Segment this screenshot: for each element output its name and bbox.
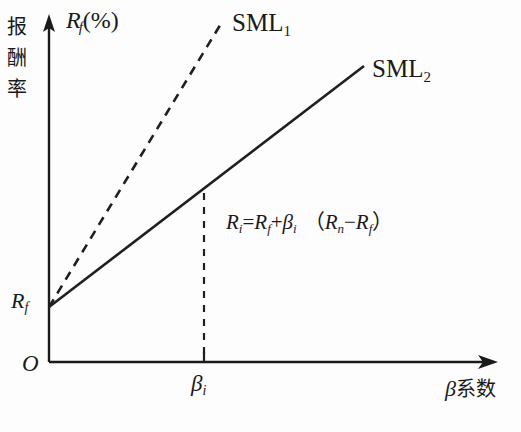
formula-beta-sub: i	[293, 221, 297, 236]
formula-ri: R	[226, 210, 239, 234]
x-axis	[49, 355, 498, 369]
y-axis-title-char-2: 酬	[2, 43, 32, 74]
formula-plus: +	[271, 210, 283, 234]
sml1-label-text: SML	[232, 9, 283, 36]
formula-minus: −	[344, 210, 356, 234]
y-axis-label: Rf(%)	[66, 8, 119, 35]
sml2-label: SML2	[372, 56, 431, 85]
origin-label: O	[22, 352, 39, 375]
formula-rn: R	[325, 210, 338, 234]
sml2-label-text: SML	[372, 55, 423, 82]
formula-rf2: R	[356, 210, 369, 234]
sml1-line	[49, 22, 222, 307]
y-axis	[43, 14, 55, 362]
capm-formula: Ri=Rf+βi（Rn−Rf）	[226, 212, 393, 235]
formula-equals: =	[242, 210, 254, 234]
x-tick-symbol: β	[191, 371, 202, 396]
y-intercept-symbol: R	[11, 288, 24, 313]
formula-rf1: R	[254, 210, 267, 234]
y-axis-title-char-1: 报	[2, 12, 32, 43]
formula-open-paren: （	[304, 210, 325, 234]
y-axis-title-cn: 报 酬 率	[2, 12, 32, 105]
y-axis-title-char-3: 率	[2, 74, 32, 105]
y-intercept-subscript: f	[24, 300, 28, 315]
x-axis-title: β系数	[445, 378, 496, 400]
x-tick-label: βi	[191, 372, 206, 398]
sml2-label-subscript: 2	[423, 69, 431, 85]
formula-beta: β	[283, 210, 293, 234]
x-axis-title-cn: 系数	[456, 377, 496, 401]
sml1-label-subscript: 1	[283, 23, 291, 39]
x-tick-subscript: i	[202, 383, 206, 398]
sml2-line	[49, 66, 364, 307]
formula-close-paren: ）	[372, 210, 393, 234]
y-intercept-label: Rf	[11, 290, 28, 315]
y-axis-label-unit: (%)	[83, 7, 119, 33]
sml1-label: SML1	[232, 10, 291, 39]
x-axis-title-beta: β	[445, 376, 456, 401]
